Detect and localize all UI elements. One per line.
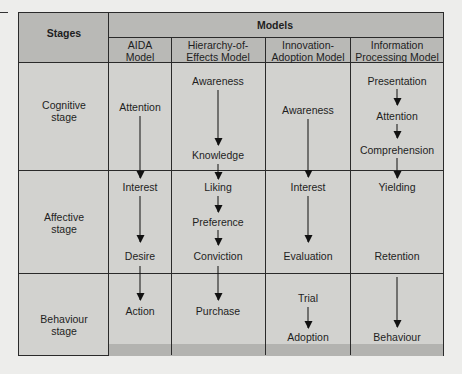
bottom-shaded-strip	[109, 344, 443, 356]
grid-line	[265, 37, 266, 355]
model-header-aida: AIDA Model	[126, 39, 155, 63]
arrow-down-icon	[140, 266, 141, 300]
hierarchy-step: Knowledge	[192, 149, 244, 161]
arrow-down-icon	[397, 89, 398, 105]
arrow-down-icon	[218, 196, 219, 212]
arrow-down-icon	[308, 119, 309, 177]
grid-line	[108, 13, 109, 355]
arrow-down-icon	[308, 307, 309, 328]
arrow-down-icon	[140, 196, 141, 242]
information-step: Yielding	[379, 181, 416, 193]
arrow-down-icon	[397, 277, 398, 327]
hierarchy-step: Conviction	[193, 250, 242, 262]
innovation-step: Awareness	[282, 104, 334, 116]
stage-affective: Affective stage	[44, 211, 84, 235]
arrow-down-icon	[397, 124, 398, 138]
innovation-step: Evaluation	[283, 250, 332, 262]
arrow-down-icon	[308, 196, 309, 242]
aida-step: Desire	[125, 250, 155, 262]
models-header: Models	[257, 19, 293, 31]
grid-line	[350, 37, 351, 355]
innovation-step: Interest	[290, 181, 325, 193]
model-header-information: Information Processing Model	[355, 39, 438, 63]
aida-step: Attention	[119, 101, 160, 113]
arrow-down-icon	[397, 158, 398, 178]
response-hierarchy-models-table: Stages Models AIDA Model Hierarchy-of- E…	[18, 12, 444, 356]
stages-header: Stages	[47, 27, 81, 39]
information-step: Presentation	[368, 75, 427, 87]
innovation-step: Adoption	[287, 331, 328, 343]
aida-step: Interest	[122, 181, 157, 193]
grid-line	[19, 170, 443, 171]
arrow-down-icon	[140, 116, 141, 178]
grid-line	[108, 37, 443, 38]
arrow-down-icon	[218, 164, 219, 179]
information-step: Behaviour	[373, 331, 420, 343]
margin-dash	[0, 12, 8, 13]
arrow-down-icon	[218, 90, 219, 145]
innovation-step: Trial	[298, 292, 318, 304]
stage-behaviour: Behaviour stage	[40, 313, 87, 337]
model-header-innovation: Innovation- Adoption Model	[272, 39, 345, 63]
information-step: Comprehension	[360, 144, 434, 156]
information-step: Attention	[376, 110, 417, 122]
aida-step: Action	[125, 305, 154, 317]
arrow-down-icon	[218, 230, 219, 245]
grid-line	[171, 37, 172, 355]
hierarchy-step: Purchase	[196, 305, 240, 317]
hierarchy-step: Preference	[192, 216, 243, 228]
hierarchy-step: Awareness	[192, 75, 244, 87]
model-header-hierarchy: Hierarchy-of- Effects Model	[186, 39, 249, 63]
hierarchy-step: Liking	[204, 181, 231, 193]
arrow-down-icon	[218, 266, 219, 300]
information-step: Retention	[375, 250, 420, 262]
grid-line	[19, 273, 443, 274]
stage-cognitive: Cognitive stage	[42, 99, 86, 123]
